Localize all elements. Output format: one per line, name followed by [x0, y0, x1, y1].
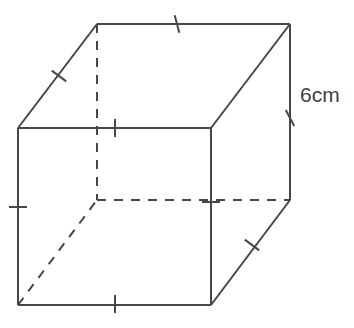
cube-figure — [0, 0, 354, 328]
bottom-right-diagonal-edge — [211, 200, 290, 305]
hidden-edges-group — [18, 24, 290, 305]
solid-edges-group — [18, 24, 290, 305]
tick-marks-group — [9, 15, 294, 313]
bottom-left-diagonal-edge-hidden — [18, 200, 97, 305]
top-right-diagonal-edge — [211, 24, 290, 128]
diagram-canvas: 6cm — [0, 0, 354, 328]
edge-length-label: 6cm — [300, 84, 340, 105]
